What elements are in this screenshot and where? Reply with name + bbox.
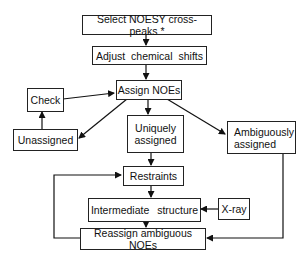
node-restraints: Restraints <box>123 166 184 186</box>
node-xray: X-ray <box>218 198 250 220</box>
node-ambiguously-assigned: Ambiguously assigned <box>227 121 296 154</box>
node-reassign-ambiguous: Reassign ambiguous NOEs <box>80 228 206 250</box>
node-unassigned: Unassigned <box>13 129 78 151</box>
node-select-noesy: Select NOESY cross-peaks * <box>82 15 212 35</box>
node-intermediate-structure: Intermediate structure <box>88 198 201 222</box>
flowchart: Select NOESY cross-peaks * Adjust chemic… <box>0 0 305 263</box>
node-assign-noes: Assign NOEs <box>116 80 182 100</box>
node-check: Check <box>27 88 64 112</box>
node-adjust-shifts: Adjust chemical shifts <box>92 46 207 65</box>
node-uniquely-assigned: Uniquely assigned <box>127 115 184 153</box>
